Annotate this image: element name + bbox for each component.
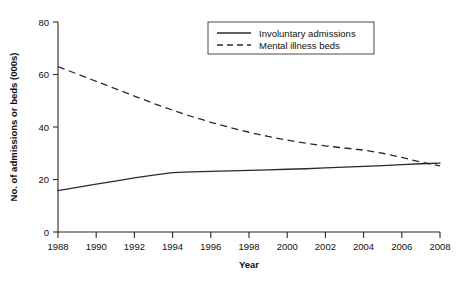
x-tick-label: 1990 [86,241,107,252]
x-tick-label: 2006 [391,241,412,252]
x-tick-label: 1992 [124,241,145,252]
y-tick-label: 40 [38,122,49,133]
y-tick-label: 20 [38,174,49,185]
x-tick-label: 1994 [162,241,183,252]
legend-label-mental-illness-beds: Mental illness beds [259,40,340,51]
x-tick-label: 1988 [47,241,68,252]
y-axis-title: No. of admissions or beds (000s) [8,53,19,202]
x-tick-label: 2000 [277,241,298,252]
x-tick-label: 2008 [429,241,450,252]
x-tick-label: 2004 [353,241,374,252]
y-tick-label: 0 [44,227,49,238]
x-tick-label: 1998 [238,241,259,252]
y-tick-label: 80 [38,17,49,28]
chart-legend: Involuntary admissions Mental illness be… [208,22,374,54]
line-chart: 0 20 40 60 80 1988 1990 1992 1994 199 [0,0,464,295]
y-tick-label: 60 [38,69,49,80]
figure-container: 0 20 40 60 80 1988 1990 1992 1994 199 [0,0,464,295]
x-tick-label: 1996 [200,241,221,252]
x-tick-label: 2002 [315,241,336,252]
x-axis-title: Year [239,259,259,270]
legend-label-involuntary-admissions: Involuntary admissions [259,28,356,39]
